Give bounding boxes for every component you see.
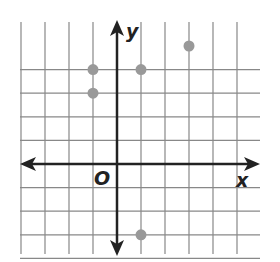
x-axis-label: x bbox=[235, 169, 249, 191]
plotted-point bbox=[136, 64, 147, 75]
plotted-point bbox=[136, 229, 147, 240]
axes bbox=[20, 20, 260, 256]
origin-label: O bbox=[94, 167, 110, 189]
plotted-point bbox=[184, 41, 195, 52]
y-axis-label: y bbox=[126, 20, 140, 42]
plotted-point bbox=[88, 88, 99, 99]
coordinate-plane: y x O bbox=[0, 0, 280, 262]
grid-lines bbox=[20, 22, 260, 258]
plotted-point bbox=[88, 64, 99, 75]
